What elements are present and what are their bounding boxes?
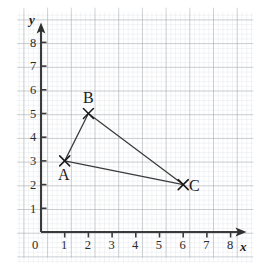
y-tick-label-1: 1 [30,203,36,216]
x-axis-label: x [240,240,247,253]
x-tick-label-5: 5 [156,239,162,252]
point-label-b: B [83,90,94,106]
y-tick-label-5: 5 [30,108,36,121]
y-tick-label-2: 2 [30,179,36,192]
x-tick-label-4: 4 [132,239,138,252]
x-tick-label-8: 8 [227,239,233,252]
y-tick-label-7: 7 [30,60,36,73]
plot-canvas [0,0,263,272]
y-tick-label-4: 4 [30,131,36,144]
x-tick-label-3: 3 [108,239,114,252]
x-tick-label-1: 1 [61,239,67,252]
origin-tick-label: 0 [32,239,38,252]
y-tick-label-3: 3 [30,155,36,168]
y-tick-label-8: 8 [30,37,36,50]
x-tick-label-2: 2 [85,239,91,252]
x-tick-label-6: 6 [180,239,186,252]
y-tick-label-6: 6 [30,84,36,97]
x-tick-label-7: 7 [203,239,209,252]
graph-paper-background [17,8,253,263]
point-label-c: C [189,178,200,194]
coordinate-grid-figure: y x 0 1 2 3 4 5 6 7 8 1 2 3 4 5 6 7 8 A … [0,0,263,272]
y-axis-label: y [29,13,35,26]
point-label-a: A [58,167,70,183]
